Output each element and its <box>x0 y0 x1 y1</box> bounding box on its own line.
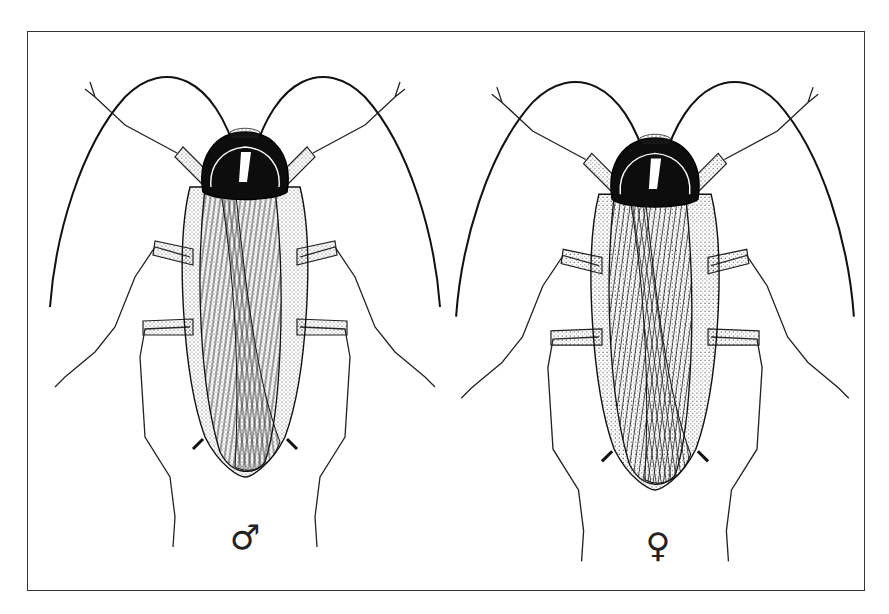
male-symbol: ♂ <box>230 520 260 554</box>
female-symbol: ♀ <box>646 528 671 562</box>
cockroach-illustration <box>0 0 889 614</box>
female-cockroach <box>456 82 854 561</box>
male-cockroach <box>50 77 440 547</box>
